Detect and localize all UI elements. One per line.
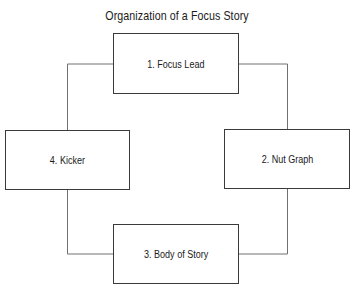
node-nut-graph: 2. Nut Graph — [224, 129, 350, 189]
connector-kicker-body — [68, 190, 114, 254]
connector-focus-lead-kicker — [68, 64, 114, 130]
connector-nut-graph-body — [239, 189, 288, 254]
node-focus-lead: 1. Focus Lead — [113, 33, 239, 94]
node-label: 3. Body of Story — [144, 248, 208, 260]
connector-focus-lead-nut-graph — [239, 64, 288, 129]
node-kicker: 4. Kicker — [5, 130, 130, 190]
node-body-of-story: 3. Body of Story — [113, 224, 239, 284]
node-label: 1. Focus Lead — [147, 58, 204, 70]
node-label: 4. Kicker — [50, 154, 85, 166]
node-label: 2. Nut Graph — [261, 153, 313, 165]
